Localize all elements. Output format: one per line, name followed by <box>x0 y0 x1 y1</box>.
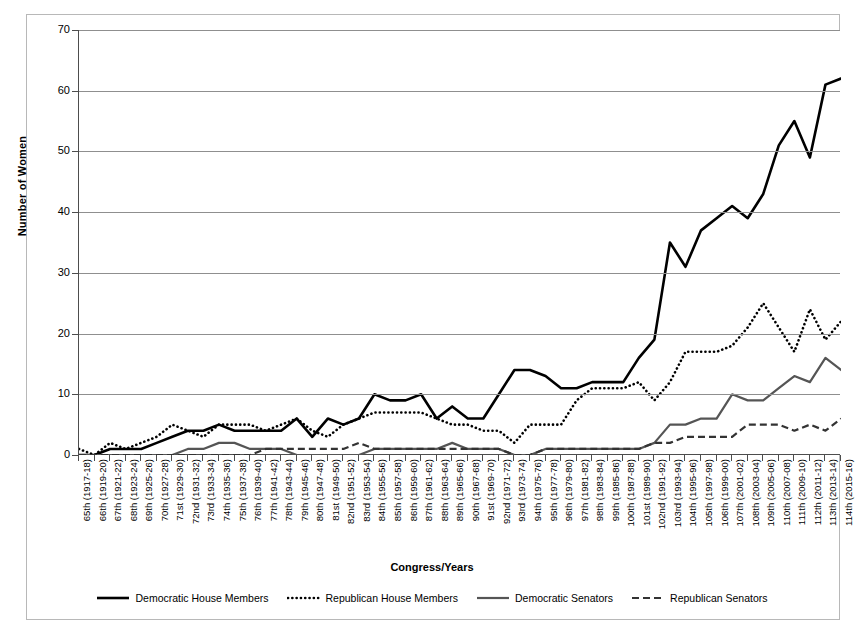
x-axis-tick-label: 89th (1965-66) <box>455 459 465 521</box>
x-axis-tick-label: 68th (1923-24) <box>129 459 139 521</box>
x-axis-tick-label: 99th (1985-86) <box>611 459 621 521</box>
y-axis-tick-label: 10 <box>30 388 70 399</box>
x-axis-tick-label: 95th (1977-78) <box>549 459 559 521</box>
x-axis-tick-label: 110th (2007-08) <box>782 459 792 526</box>
x-axis-tick-label: 100th (1987-88) <box>626 459 636 527</box>
gridline <box>79 151 840 152</box>
gridline <box>79 334 840 335</box>
x-axis-tick-label: 79th (1945-46) <box>300 459 310 521</box>
series-svg <box>79 30 841 455</box>
dashed-line-icon <box>631 593 665 603</box>
legend-label: Democratic House Members <box>135 592 268 604</box>
solid-line-icon <box>476 593 510 603</box>
x-axis-tick-label: 101st (1989-90) <box>642 459 652 526</box>
x-axis-tick-label: 102nd (1991-92) <box>657 459 667 529</box>
series-line <box>79 303 841 455</box>
x-axis-tick-label: 73rd (1933-34) <box>206 459 216 522</box>
x-axis-tick-label: 112th (2011-12) <box>813 459 823 525</box>
x-axis-tick-label: 98th (1983-84) <box>595 459 605 521</box>
x-axis-tick-label: 85th (1957-58) <box>393 459 403 521</box>
x-axis-tick-label: 109th (2005-06) <box>766 459 776 527</box>
x-axis-tick-label: 108th (2003-04) <box>751 459 761 527</box>
legend-label: Republican Senators <box>670 592 767 604</box>
x-axis-tick-label: 75th (1937-38) <box>238 459 248 521</box>
x-axis-tick-label: 91st (1969-70) <box>486 459 496 521</box>
gridline <box>79 273 840 274</box>
y-axis-tick-label: 0 <box>30 449 70 460</box>
legend-label: Republican House Members <box>326 592 458 604</box>
x-axis-tick-label: 92nd (1971-72) <box>502 459 512 524</box>
x-axis-tick-label: 77th (1941-42) <box>269 459 279 521</box>
chart-page: Number of Women 65th (1917-18)66th (1919… <box>0 0 864 640</box>
series-canvas <box>79 30 840 454</box>
y-axis-tick-label: 20 <box>30 328 70 339</box>
y-axis-tick-mark <box>72 91 78 92</box>
x-axis-tick-label: 113th (2013-14) <box>828 459 838 526</box>
x-axis-tick-label: 67th (1921-22) <box>113 459 123 521</box>
x-axis-tick-label: 72nd (1931-32) <box>191 459 201 524</box>
y-axis-tick-mark <box>72 394 78 395</box>
x-axis-tick-label: 97th (1981-82) <box>580 459 590 521</box>
x-axis-tick-label: 70th (1927-28) <box>160 459 170 521</box>
gridline <box>79 91 840 92</box>
solid-thick-line-icon <box>96 593 130 603</box>
x-axis-tick-label: 84th (1955-56) <box>377 459 387 521</box>
x-axis-tick-label: 74th (1935-36) <box>222 459 232 521</box>
x-axis-tick-label: 80th (1947-48) <box>315 459 325 521</box>
y-axis-tick-mark <box>72 334 78 335</box>
chart-legend: Democratic House MembersRepublican House… <box>0 592 864 604</box>
x-axis-tick-label: 82nd (1951-52) <box>346 459 356 524</box>
x-axis-tick-label: 105th (1997-98) <box>704 459 714 527</box>
legend-item[interactable]: Republican House Members <box>287 592 458 604</box>
x-axis-tick-label: 86th (1959-60) <box>409 459 419 521</box>
y-axis-tick-label: 40 <box>30 206 70 217</box>
x-axis-tick-label: 114th (2015-16) <box>844 459 854 526</box>
x-axis-tick-label: 107th (2001-02) <box>735 459 745 527</box>
y-axis-tick-mark <box>72 212 78 213</box>
legend-label: Democratic Senators <box>515 592 613 604</box>
plot-area <box>78 30 840 455</box>
x-axis-tick-label: 111th (2009-10) <box>797 459 807 525</box>
y-axis-tick-label: 60 <box>30 85 70 96</box>
x-axis-tick-label: 96th (1979-80) <box>564 459 574 521</box>
y-axis-tick-mark <box>72 455 78 456</box>
y-axis-tick-label: 50 <box>30 145 70 156</box>
y-axis-tick-label: 30 <box>30 267 70 278</box>
legend-item[interactable]: Republican Senators <box>631 592 767 604</box>
x-axis-tick-label: 69th (1925-26) <box>144 459 154 521</box>
gridline <box>79 212 840 213</box>
legend-item[interactable]: Democratic House Members <box>96 592 268 604</box>
y-axis-tick-label: 70 <box>30 24 70 35</box>
y-axis-tick-mark <box>72 273 78 274</box>
series-line <box>79 358 841 455</box>
x-axis-tick-label: 81st (1949-50) <box>331 459 341 521</box>
x-axis-tick-label: 71st (1929-30) <box>175 459 185 521</box>
x-axis-tick-label: 103rd (1993-94) <box>673 459 683 527</box>
x-axis-tick-label: 88th (1963-64) <box>440 459 450 521</box>
x-axis-tick-label: 93rd (1973-74) <box>517 459 527 522</box>
x-axis-tick-label: 76th (1939-40) <box>253 459 263 521</box>
x-axis-tick-label: 106th (1999-00) <box>720 459 730 527</box>
series-line <box>79 79 841 455</box>
x-axis-tick-label: 90th (1967-68) <box>471 459 481 521</box>
y-axis-tick-mark <box>72 30 78 31</box>
dotted-line-icon <box>287 593 321 603</box>
x-axis-tick-label: 94th (1975-76) <box>533 459 543 521</box>
x-axis-tick-label: 65th (1917-18) <box>82 459 92 521</box>
y-axis-title: Number of Women <box>16 106 28 266</box>
y-axis-tick-mark <box>72 151 78 152</box>
x-axis-title: Congress/Years <box>0 561 864 573</box>
x-axis-tick-label: 66th (1919-20) <box>98 459 108 521</box>
gridline <box>79 394 840 395</box>
x-axis-tick-label: 87th (1961-62) <box>424 459 434 521</box>
x-axis-tick-mark <box>840 455 841 461</box>
x-axis-tick-label: 83rd (1953-54) <box>362 459 372 522</box>
x-axis-tick-label: 78th (1943-44) <box>284 459 294 521</box>
gridline <box>79 30 840 31</box>
x-axis-tick-label: 104th (1995-96) <box>688 459 698 527</box>
x-axis-tick-labels: 65th (1917-18)66th (1919-20)67th (1921-2… <box>78 459 840 554</box>
legend-item[interactable]: Democratic Senators <box>476 592 613 604</box>
